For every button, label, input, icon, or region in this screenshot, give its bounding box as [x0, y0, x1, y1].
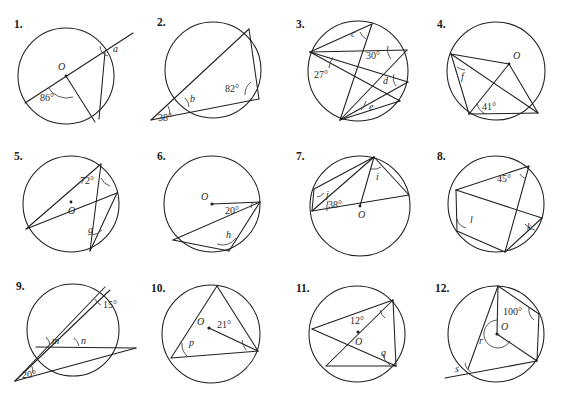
chord-left-right: [456, 190, 542, 218]
angle-arc-g: [92, 230, 102, 235]
angle-label-f: f: [461, 71, 465, 82]
angle-label-m: m: [52, 335, 59, 346]
chord-left-right: [310, 50, 407, 52]
angle-label-100: 100°: [503, 306, 522, 317]
angle-arc-m: [46, 337, 50, 345]
panel-3: 3. c 30° 27° d e: [288, 2, 429, 135]
chord-lowerleft-bottom: [173, 240, 229, 251]
chord-horizontal: [36, 347, 136, 348]
panel-10: 10. O 21° p: [141, 268, 282, 400]
panel-7: 7. i j 38° O: [288, 138, 429, 271]
chord-left-topright: [456, 166, 529, 190]
centre-label-O: O: [355, 336, 362, 347]
angle-label-86: 86°: [40, 92, 54, 103]
radius-top-centre: [360, 157, 374, 206]
angle-arc-72: [101, 178, 110, 186]
chord-left-top: [26, 164, 101, 229]
chord-leftbottom-bottom: [457, 231, 505, 252]
panel-11: 11. 12° O q: [288, 268, 429, 400]
panel-1: 1. 86° O a: [0, 2, 141, 135]
angle-label-20: 20°: [22, 369, 36, 380]
chord-top-left2: [312, 157, 374, 211]
angle-label-45: 45°: [497, 173, 511, 184]
angle-label-r: r: [479, 335, 483, 346]
angle-label-n: n: [81, 335, 86, 346]
angle-label-p: p: [188, 337, 194, 348]
centre-dot: [70, 201, 73, 204]
angle-arc-d: [393, 74, 396, 86]
panel-2: 2. 38° b 82°: [141, 2, 282, 135]
chord-left-leftbottom: [456, 190, 457, 231]
chord-top-right: [374, 157, 409, 195]
centre-label-O: O: [58, 61, 65, 72]
panel-number: 8.: [437, 150, 446, 162]
secant-external-top: [15, 287, 105, 381]
centre-dot: [508, 63, 511, 66]
angle-label-b: b: [190, 93, 195, 104]
angle-label-20: 20°: [225, 205, 239, 216]
circle-outline: [162, 285, 260, 383]
angle-arc-p: [182, 343, 187, 356]
panel-number: 12.: [435, 282, 450, 294]
panel-number: 3.: [296, 18, 305, 30]
angle-label-g: g: [88, 224, 93, 235]
segment-upperleft-centre: [451, 54, 509, 64]
angle-arc-i: [371, 167, 381, 169]
centre-dot: [495, 332, 498, 335]
angle-label-i: i: [376, 171, 379, 182]
circle-outline: [27, 284, 119, 376]
radius-centre-top: [497, 286, 498, 334]
panel-8: 8. 45° l k: [425, 138, 566, 271]
angle-label-82: 82°: [225, 83, 239, 94]
chord-topright-bottomright: [537, 314, 539, 361]
angle-arc-c: [360, 32, 366, 39]
chord-bottom-right: [505, 218, 542, 252]
panel-number: 2.: [157, 16, 166, 28]
angle-label-k: k: [527, 221, 532, 232]
angle-arc-12: [380, 310, 385, 318]
panel-number: 11.: [296, 282, 310, 294]
circle-outline: [448, 156, 544, 252]
panel-9: 9. 15° m n 20°: [0, 268, 141, 400]
chord-topright-bottomright: [393, 300, 396, 366]
angle-arc-f: [457, 67, 465, 70]
centre-dot: [207, 326, 210, 329]
chord-top-left: [171, 286, 217, 358]
centre-label-O: O: [358, 209, 365, 220]
angle-arc-j: [317, 193, 324, 197]
angle-label-a: a: [113, 43, 118, 54]
angle-arc-n: [74, 338, 79, 346]
chord-right-lowerleft: [173, 202, 260, 240]
angle-label-d: d: [383, 75, 389, 86]
chord-left-top: [310, 24, 372, 52]
panel-number: 6.: [157, 150, 166, 162]
panel-number: 7.: [296, 150, 305, 162]
circle-outline: [23, 156, 119, 252]
angle-label-41: 41°: [482, 101, 496, 112]
angle-arc-45: [520, 174, 526, 179]
chord-bottom-upperright: [99, 52, 105, 119]
angle-label-s: s: [455, 363, 459, 374]
chord-top-bottomleft: [468, 286, 498, 369]
worksheet-canvas: 1. 86° O a 2.: [0, 0, 566, 400]
angle-label-38: 38°: [328, 199, 342, 210]
radius-to-bottom: [66, 76, 95, 122]
centre-label-O: O: [501, 321, 508, 332]
centre-dot: [65, 75, 68, 78]
panel-4: 4. f 41° O: [425, 2, 566, 135]
angle-arc-b: [185, 98, 189, 107]
chord-top-bottom: [340, 24, 372, 120]
panel-5: 5. 72° g O: [0, 138, 141, 271]
panel-number: 9.: [16, 280, 25, 292]
angle-label-38: 38°: [158, 112, 172, 123]
centre-dot: [359, 205, 362, 208]
angle-arc-l: [457, 219, 466, 228]
angle-label-h: h: [226, 229, 231, 240]
circle-outline: [165, 22, 261, 118]
angle-arc-82: [245, 82, 251, 95]
chord-right: [249, 29, 259, 99]
angle-label-15: 15°: [103, 299, 117, 310]
centre-label-O: O: [513, 50, 520, 61]
angle-label-c: c: [351, 28, 356, 39]
panel-number: 5.: [14, 150, 23, 162]
